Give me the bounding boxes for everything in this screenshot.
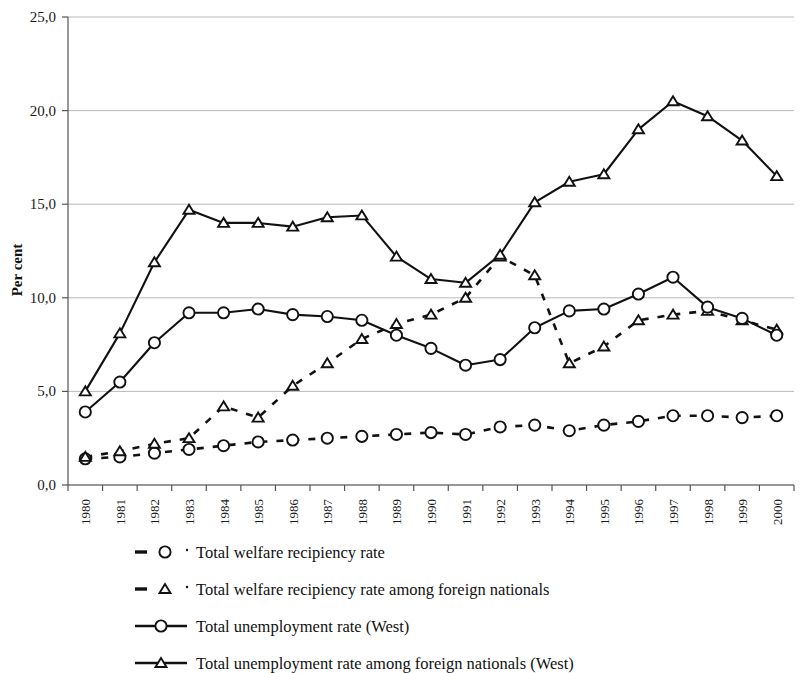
data-point-circle-marker — [218, 307, 229, 318]
y-tick-label: 15,0 — [30, 196, 56, 212]
legend-marker — [155, 620, 166, 631]
y-tick-label: 0,0 — [37, 477, 56, 493]
legend-dot-glyph — [186, 549, 188, 551]
legend-label: Total welfare recipiency rate among fore… — [196, 580, 549, 599]
data-point-triangle-marker — [702, 111, 713, 120]
data-point-circle-marker — [218, 440, 229, 451]
data-point-triangle-marker — [322, 212, 333, 221]
data-point-circle-marker — [771, 410, 782, 421]
x-tick-label: 1989 — [389, 499, 404, 525]
x-tick-label: 1995 — [597, 499, 612, 525]
data-point-circle-marker — [425, 427, 436, 438]
legend-item[interactable]: Total unemployment rate among foreign na… — [135, 654, 574, 673]
x-tick-label: 1997 — [666, 499, 681, 526]
legend-item[interactable]: Total welfare recipiency rate — [135, 543, 385, 562]
data-point-triangle-marker — [80, 452, 91, 461]
y-tick-label: 25,0 — [30, 9, 56, 25]
legend-marker — [159, 584, 170, 593]
x-tick-label: 1985 — [251, 499, 266, 525]
x-tick-label: 1994 — [562, 499, 577, 526]
data-point-triangle-marker — [356, 334, 367, 343]
x-tick-label: 1998 — [701, 499, 716, 525]
data-point-circle-marker — [391, 330, 402, 341]
x-tick-label-group: 1980198119821983198419851986198719881989… — [78, 499, 784, 526]
data-point-circle-marker — [287, 309, 298, 320]
x-tick-label: 1982 — [147, 499, 162, 525]
legend-marker — [159, 546, 170, 557]
data-point-circle-marker — [598, 303, 609, 314]
data-point-triangle-marker — [183, 205, 194, 214]
data-point-circle-marker — [460, 429, 471, 440]
legend-marker — [155, 658, 166, 667]
gridline-group — [68, 17, 794, 485]
data-point-circle-marker — [114, 376, 125, 387]
data-point-triangle-marker — [114, 446, 125, 455]
x-tick-label: 1984 — [217, 499, 232, 526]
x-tick-label: 1981 — [113, 499, 128, 525]
data-point-triangle-marker — [218, 401, 229, 410]
data-point-triangle-marker — [495, 250, 506, 259]
data-point-circle-marker — [183, 307, 194, 318]
y-axis-title: Per cent — [9, 244, 25, 297]
x-tick-label: 1980 — [78, 499, 93, 525]
data-point-circle-marker — [183, 444, 194, 455]
x-tick-label: 2000 — [770, 499, 785, 525]
data-point-triangle-marker — [667, 310, 678, 319]
data-point-circle-marker — [149, 337, 160, 348]
data-point-circle-marker — [702, 410, 713, 421]
data-point-circle-marker — [702, 302, 713, 313]
legend-label: Total welfare recipiency rate — [196, 543, 385, 562]
legend-item[interactable]: Total welfare recipiency rate among fore… — [135, 580, 549, 599]
x-tick-label: 1992 — [493, 499, 508, 525]
data-point-circle-marker — [425, 343, 436, 354]
y-tick-label: 5,0 — [37, 383, 56, 399]
data-point-circle-marker — [667, 272, 678, 283]
legend-label: Total unemployment rate among foreign na… — [196, 654, 574, 673]
x-tick-label: 1983 — [182, 499, 197, 525]
data-point-triangle-marker — [114, 328, 125, 337]
data-point-circle-marker — [495, 354, 506, 365]
data-point-circle-marker — [598, 419, 609, 430]
data-point-circle-marker — [80, 406, 91, 417]
data-point-circle-marker — [391, 429, 402, 440]
data-point-circle-marker — [149, 448, 160, 459]
data-point-triangle-marker — [183, 433, 194, 442]
data-point-triangle-marker — [633, 315, 644, 324]
x-tick-label: 1993 — [528, 499, 543, 525]
data-point-circle-marker — [322, 433, 333, 444]
x-tick-label: 1987 — [320, 499, 335, 526]
legend-item[interactable]: Total unemployment rate (West) — [135, 617, 409, 636]
data-point-circle-marker — [529, 419, 540, 430]
data-point-circle-marker — [356, 431, 367, 442]
data-point-triangle-marker — [322, 358, 333, 367]
data-point-circle-marker — [633, 416, 644, 427]
data-point-triangle-marker — [564, 358, 575, 367]
legend-label: Total unemployment rate (West) — [196, 617, 409, 636]
series-marker-group — [80, 96, 783, 464]
axis-group — [62, 17, 794, 491]
data-point-triangle-marker — [667, 96, 678, 105]
legend-dot-glyph — [186, 586, 188, 588]
data-point-circle-marker — [564, 425, 575, 436]
data-point-circle-marker — [460, 360, 471, 371]
chart-figure: 0,05,010,015,020,025,0 19801981198219831… — [0, 0, 806, 673]
data-point-triangle-marker — [564, 177, 575, 186]
data-point-circle-marker — [253, 436, 264, 447]
data-point-triangle-marker — [391, 319, 402, 328]
data-point-triangle-marker — [149, 257, 160, 266]
x-tick-label: 1988 — [355, 499, 370, 525]
data-point-circle-marker — [771, 330, 782, 341]
x-tick-label: 1991 — [459, 499, 474, 525]
data-point-circle-marker — [322, 311, 333, 322]
data-point-triangle-marker — [425, 310, 436, 319]
y-tick-label-group: 0,05,010,015,020,025,0 — [30, 9, 56, 493]
data-point-circle-marker — [529, 322, 540, 333]
data-point-triangle-marker — [80, 386, 91, 395]
data-point-triangle-marker — [253, 218, 264, 227]
x-tick-label: 1986 — [286, 499, 301, 526]
y-tick-label: 10,0 — [30, 290, 56, 306]
x-tick-label: 1990 — [424, 499, 439, 525]
chart-legend: Total welfare recipiency rateTotal welfa… — [135, 543, 574, 673]
data-point-circle-marker — [667, 410, 678, 421]
data-point-circle-marker — [253, 303, 264, 314]
